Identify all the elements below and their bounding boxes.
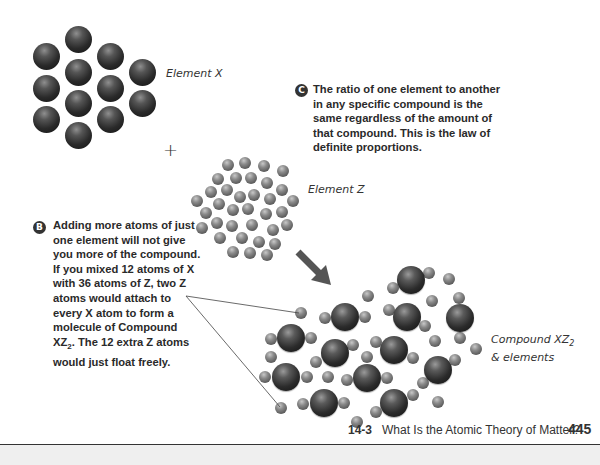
callout-b-badge: B [33, 221, 46, 234]
footer-section-number: 14-3 [348, 423, 372, 437]
compound-label: Compound XZ2 & elements [491, 333, 574, 365]
footer-section-title: What Is the Atomic Theory of Matter? [382, 423, 580, 437]
reaction-arrow-icon [298, 252, 331, 285]
page-number: 445 [568, 421, 591, 437]
element-x-label: Element X [166, 67, 223, 80]
plus-sign: + [163, 139, 178, 160]
callout-b-text: Adding more atoms of just one element wi… [53, 218, 200, 369]
footer-band [0, 445, 600, 465]
callout-c-text: The ratio of one element to another in a… [313, 82, 500, 155]
pointer-line-upper [186, 296, 299, 313]
callout-c-badge: C [295, 84, 308, 97]
element-z-label: Element Z [308, 183, 365, 196]
